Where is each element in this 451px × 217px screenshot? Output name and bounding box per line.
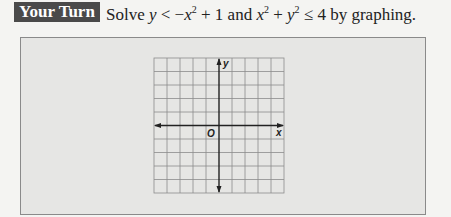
op-less-than: < − [157, 5, 185, 24]
prompt-tail: ≤ 4 by graphing. [300, 5, 417, 24]
origin-label: O [207, 128, 215, 139]
op-plus: + [269, 5, 287, 24]
y-axis-label: y [222, 58, 229, 69]
prompt-mid: + 1 and [197, 5, 257, 24]
arrow-left-icon [154, 123, 161, 128]
var-x: x [184, 5, 192, 24]
var-y: y [287, 5, 295, 24]
x-axis-label: x [275, 127, 282, 138]
problem-prompt: Solve y < −x2 + 1 and x2 + y2 ≤ 4 by gra… [106, 5, 416, 25]
var-y: y [149, 5, 157, 24]
axes [154, 58, 284, 193]
var-x: x [256, 5, 264, 24]
your-turn-badge: Your Turn [14, 2, 100, 22]
arrow-down-icon [217, 186, 222, 193]
arrow-up-icon [217, 58, 222, 65]
coordinate-grid[interactable]: y x O [150, 54, 290, 199]
prompt-lead: Solve [106, 5, 149, 24]
